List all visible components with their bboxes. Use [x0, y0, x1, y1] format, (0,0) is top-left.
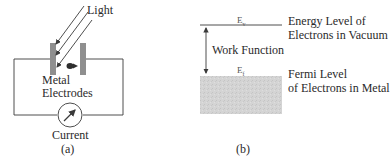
- ammeter-icon: [58, 103, 82, 127]
- figure: Light Metal Electrodes Current (a) Ev En…: [0, 0, 392, 165]
- fermi-level-label-line1: Fermi Level: [288, 68, 347, 82]
- electron-icon: [67, 63, 79, 69]
- fermi-level-label-line2: of Electrons in Metal: [288, 82, 390, 96]
- electrodes-label-line2: Electrodes: [42, 87, 93, 101]
- caption-a: (a): [61, 143, 74, 157]
- left-electrode: [50, 43, 56, 75]
- current-label: Current: [52, 129, 89, 143]
- light-label: Light: [87, 4, 113, 18]
- metal-band: [200, 76, 282, 114]
- vacuum-level-label-line2: Electrons in Vacuum: [288, 29, 388, 43]
- caption-b: (b): [236, 143, 250, 157]
- right-electrode: [80, 43, 86, 75]
- work-function-label: Work Function: [212, 44, 284, 58]
- vacuum-level-symbol: Ev: [237, 15, 246, 28]
- fermi-level-symbol: Ef: [237, 65, 245, 78]
- vacuum-level-label-line1: Energy Level of: [288, 15, 366, 29]
